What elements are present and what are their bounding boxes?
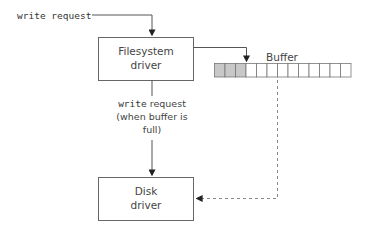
buffer-cell-empty (288, 64, 299, 78)
buffer-label: Buffer (266, 51, 299, 63)
flush-label-line2: (when buffer is (116, 111, 187, 122)
buffer-cell-empty (267, 64, 278, 78)
filesystem-box-line2: driver (131, 59, 163, 71)
disk-driver-box: Disk driver (99, 178, 194, 221)
buffer-flush-dashed-arrow (197, 80, 278, 199)
input-arrow (92, 15, 152, 35)
input-write-request-label: write request (17, 10, 91, 21)
buffer-cell-empty (299, 64, 310, 78)
buffer-cell-filled (225, 64, 236, 78)
buffer-cell-empty (320, 64, 331, 78)
buffer-write-arrow (193, 48, 247, 62)
filesystem-driver-box: Filesystem driver (99, 38, 194, 81)
flush-label-line1: write request (118, 98, 186, 109)
buffer-cell-empty (309, 64, 320, 78)
buffer-cell-empty (257, 64, 268, 78)
disk-box-line2: driver (131, 199, 163, 211)
buffer-cell-empty (246, 64, 257, 78)
buffer-cells (215, 64, 352, 78)
disk-box-line1: Disk (135, 185, 158, 197)
flush-label-line3: full) (143, 124, 161, 135)
buffer-cell-empty (330, 64, 341, 78)
buffer-cell-empty (278, 64, 289, 78)
buffer-cell-filled (236, 64, 247, 78)
buffered-write-diagram: write request Filesystem driver Buffer w… (0, 0, 372, 231)
filesystem-box-line1: Filesystem (118, 45, 174, 57)
buffer-cell-filled (215, 64, 226, 78)
buffer-cell-empty (341, 64, 352, 78)
